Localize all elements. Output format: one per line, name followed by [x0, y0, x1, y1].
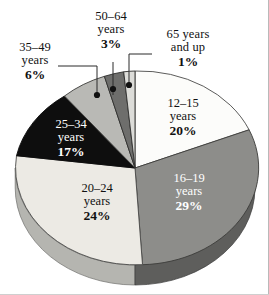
callout-label-65-and-up: 65 years and up 1% — [150, 28, 226, 69]
callout-65-up-line2: and up — [150, 41, 226, 54]
slice-20-24-percent: 24% — [66, 209, 128, 223]
slice-16-19-line2: years — [158, 185, 220, 198]
callout-50-64-percent: 3% — [80, 37, 142, 51]
callout-50-64-line2: years — [80, 23, 142, 36]
slice-label-25-34-years: 25–34 years 17% — [40, 118, 102, 159]
chart-canvas: 50–64 years 3% 65 years and up 1% 35–49 … — [0, 0, 269, 295]
callout-65-up-percent: 1% — [150, 55, 226, 69]
slice-12-15-line2: years — [152, 110, 214, 123]
slice-12-15-percent: 20% — [152, 124, 214, 138]
pie-top-surface — [16, 71, 259, 265]
callout-label-35-49-years: 35–49 years 6% — [6, 41, 64, 82]
callout-label-50-64-years: 50–64 years 3% — [80, 10, 142, 51]
slice-label-20-24-years: 20–24 years 24% — [66, 182, 128, 223]
slice-16-19-percent: 29% — [158, 199, 220, 213]
slice-25-34-percent: 17% — [40, 145, 102, 159]
slice-label-16-19-years: 16–19 years 29% — [158, 172, 220, 213]
page-edge-right — [268, 0, 269, 295]
leader-dot-35-49 — [94, 92, 100, 98]
slice-25-34-line2: years — [40, 131, 102, 144]
callout-35-49-line2: years — [6, 54, 64, 67]
leader-dot-65-up — [126, 82, 132, 88]
slice-label-12-15-years: 12–15 years 20% — [152, 97, 214, 138]
slice-20-24-line2: years — [66, 195, 128, 208]
callout-35-49-percent: 6% — [6, 68, 64, 82]
leader-dot-50-64 — [110, 86, 116, 92]
